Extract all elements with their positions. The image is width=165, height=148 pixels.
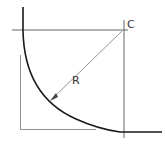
fillet-curve [23, 7, 162, 132]
center-label: C [127, 18, 135, 31]
radius-leader-line [52, 31, 122, 99]
radius-label: R [72, 74, 80, 87]
radius-diagram: C R [0, 0, 165, 148]
